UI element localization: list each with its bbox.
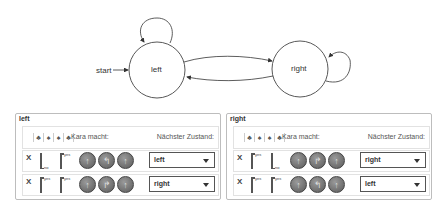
loop-left bbox=[140, 18, 172, 43]
turn-left-icon[interactable]: ↰ bbox=[98, 152, 115, 169]
move-icon[interactable]: ↑ bbox=[328, 176, 345, 193]
leaf-sensor-icon[interactable]: ♠ bbox=[53, 133, 63, 142]
delete-row-button[interactable]: X bbox=[237, 177, 242, 186]
chevron-down-icon bbox=[203, 183, 209, 187]
transition-row: X yes yes ↑ ↱ ↑ right bbox=[22, 174, 219, 196]
delete-row-button[interactable]: X bbox=[26, 177, 31, 186]
sensor-value[interactable]: yes bbox=[250, 153, 262, 169]
chevron-down-icon bbox=[414, 159, 420, 163]
edge-right-to-left bbox=[187, 76, 273, 81]
tree-sensor-icon[interactable]: ♣ bbox=[33, 133, 43, 142]
sensor-value[interactable]: yes bbox=[59, 177, 71, 193]
sensor-value[interactable]: yes bbox=[39, 177, 51, 193]
next-state-label: Nächster Zustand: bbox=[157, 133, 214, 140]
transition-row: X yes no ↑ ↱ ↑ right bbox=[233, 150, 430, 172]
next-state-dropdown[interactable]: left bbox=[360, 176, 426, 192]
turn-right-icon[interactable]: ↱ bbox=[98, 176, 115, 193]
kara-action-label: Kara macht: bbox=[71, 133, 109, 140]
sensor-value[interactable]: yes bbox=[270, 177, 282, 193]
state-panel-left: left ♣ ♠ ♠ ♣ Kara macht: Nächster Zustan… bbox=[15, 113, 221, 200]
delete-row-button[interactable]: X bbox=[26, 153, 31, 162]
state-diagram: start left right bbox=[0, 0, 444, 106]
loop-right bbox=[326, 52, 350, 82]
next-state-label: Nächster Zustand: bbox=[368, 133, 425, 140]
transition-row: X no yes ↑ ↰ ↑ left bbox=[22, 150, 219, 172]
leaf-sensor-icon[interactable]: ♠ bbox=[43, 133, 53, 142]
next-state-dropdown[interactable]: right bbox=[360, 152, 426, 168]
kara-action-label: Kara macht: bbox=[282, 133, 320, 140]
sensor-value[interactable]: no bbox=[39, 153, 51, 169]
leaf-sensor-icon[interactable]: ♠ bbox=[264, 133, 274, 142]
move-icon[interactable]: ↑ bbox=[328, 152, 345, 169]
state-right-label: right bbox=[291, 64, 307, 73]
state-left-label: left bbox=[151, 65, 162, 74]
move-icon[interactable]: ↑ bbox=[290, 152, 307, 169]
turn-left-icon[interactable]: ↰ bbox=[309, 176, 326, 193]
next-state-dropdown[interactable]: left bbox=[149, 152, 215, 168]
turn-right-icon[interactable]: ↱ bbox=[309, 152, 326, 169]
sensor-value[interactable]: yes bbox=[250, 177, 262, 193]
panel-title: right bbox=[230, 115, 246, 122]
move-icon[interactable]: ↑ bbox=[290, 176, 307, 193]
panel-header: ♣ ♠ ♠ ♣ Kara macht: Nächster Zustand: bbox=[233, 126, 430, 149]
sensor-value[interactable]: yes bbox=[59, 153, 71, 169]
state-panel-right: right ♣ ♠ ♠ ♣ Kara macht: Nächster Zusta… bbox=[226, 113, 432, 200]
delete-row-button[interactable]: X bbox=[237, 153, 242, 162]
transition-row: X yes yes ↑ ↰ ↑ left bbox=[233, 174, 430, 196]
start-label: start bbox=[96, 66, 112, 75]
panel-header: ♣ ♠ ♠ ♣ Kara macht: Nächster Zustand: bbox=[22, 126, 219, 149]
leaf-sensor-icon[interactable]: ♠ bbox=[254, 133, 264, 142]
tree-sensor-icon[interactable]: ♣ bbox=[244, 133, 254, 142]
panel-title: left bbox=[19, 115, 30, 122]
sensor-icons: ♣ ♠ ♠ ♣ bbox=[244, 133, 285, 142]
move-icon[interactable]: ↑ bbox=[117, 176, 134, 193]
move-icon[interactable]: ↑ bbox=[79, 176, 96, 193]
chevron-down-icon bbox=[203, 159, 209, 163]
sensor-icons: ♣ ♠ ♠ ♣ bbox=[33, 133, 74, 142]
move-icon[interactable]: ↑ bbox=[79, 152, 96, 169]
next-state-dropdown[interactable]: right bbox=[149, 176, 215, 192]
edge-left-to-right bbox=[184, 56, 272, 62]
move-icon[interactable]: ↑ bbox=[117, 152, 134, 169]
chevron-down-icon bbox=[414, 183, 420, 187]
sensor-value[interactable]: no bbox=[270, 153, 282, 169]
